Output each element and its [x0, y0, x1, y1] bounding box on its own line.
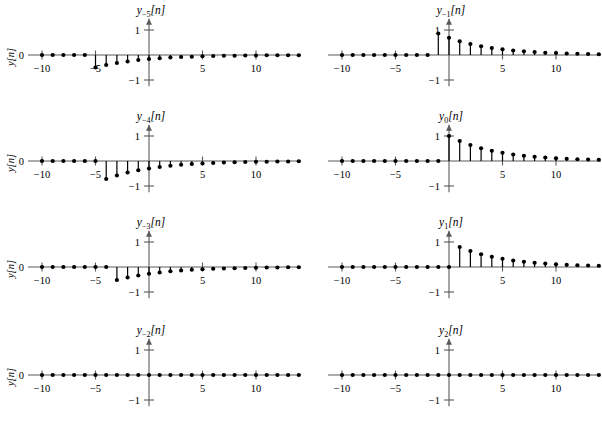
data-point — [136, 58, 140, 62]
data-point — [340, 265, 344, 269]
data-point — [200, 267, 204, 271]
data-point — [372, 373, 376, 377]
data-point — [393, 53, 397, 57]
y-zero-label: 0 — [19, 262, 24, 273]
data-point — [511, 373, 515, 377]
x-tick-label: 5 — [200, 383, 205, 394]
data-point — [51, 373, 55, 377]
data-point — [543, 155, 547, 159]
data-point — [479, 146, 483, 150]
data-point — [340, 159, 344, 163]
data-point — [565, 373, 569, 377]
data-point — [222, 266, 226, 270]
data-point — [286, 265, 290, 269]
data-point — [211, 54, 215, 58]
x-tick-label: −5 — [390, 275, 401, 286]
x-tick-label: −5 — [390, 169, 401, 180]
y-axis-arrow — [146, 339, 152, 345]
data-point — [458, 139, 462, 143]
data-point — [158, 56, 162, 60]
x-tick-label: −10 — [334, 275, 350, 286]
data-point — [275, 265, 279, 269]
data-point — [61, 265, 65, 269]
y-axis-arrow — [446, 125, 452, 131]
data-point — [458, 373, 462, 377]
y-tick-label: 1 — [435, 131, 440, 142]
y-tick-label: 1 — [135, 345, 140, 356]
data-point — [72, 373, 76, 377]
data-point — [533, 373, 537, 377]
data-point — [372, 53, 376, 57]
x-tick-label: −5 — [90, 275, 101, 286]
data-point — [147, 57, 151, 61]
x-tick-label: −10 — [34, 169, 50, 180]
y-axis-arrow — [146, 231, 152, 237]
data-point — [586, 157, 590, 161]
y-axis-label: y[n] — [5, 260, 16, 279]
x-tick-label: −10 — [34, 383, 50, 394]
data-point — [126, 170, 130, 174]
data-point — [543, 373, 547, 377]
data-point — [61, 159, 65, 163]
data-point — [147, 272, 151, 276]
data-point — [51, 53, 55, 57]
data-point — [136, 168, 140, 172]
data-point — [447, 36, 451, 40]
data-point — [147, 166, 151, 170]
data-point — [586, 52, 590, 56]
y-tick-label: −1 — [129, 75, 140, 86]
x-tick-label: −5 — [90, 383, 101, 394]
data-point — [40, 265, 44, 269]
data-point — [575, 373, 579, 377]
data-point — [83, 159, 87, 163]
data-point — [565, 51, 569, 55]
data-point — [597, 52, 601, 56]
data-point — [222, 160, 226, 164]
data-point — [500, 373, 504, 377]
data-point — [72, 265, 76, 269]
data-point — [126, 59, 130, 63]
data-point — [233, 266, 237, 270]
data-point — [533, 155, 537, 159]
data-point — [393, 265, 397, 269]
data-point — [93, 373, 97, 377]
data-point — [179, 55, 183, 59]
data-point — [522, 260, 526, 264]
data-point — [51, 265, 55, 269]
data-point — [458, 39, 462, 43]
data-point — [61, 53, 65, 57]
x-tick-label: −10 — [334, 63, 350, 74]
x-tick-label: −10 — [34, 275, 50, 286]
data-point — [404, 159, 408, 163]
data-point — [40, 373, 44, 377]
data-point — [447, 134, 451, 138]
data-point — [500, 257, 504, 261]
panel-title: y0[n] — [438, 110, 463, 125]
x-tick-label: 10 — [551, 63, 562, 74]
data-point — [275, 53, 279, 57]
plot-panel-y1: y1[n]−10−551015201−1n — [300, 212, 601, 319]
data-point — [211, 267, 215, 271]
data-point — [243, 53, 247, 57]
y-tick-label: −1 — [129, 395, 140, 406]
data-point — [200, 161, 204, 165]
data-point — [286, 53, 290, 57]
data-point — [340, 373, 344, 377]
y-axis-arrow — [446, 339, 452, 345]
y-tick-label: −1 — [429, 287, 440, 298]
data-point — [286, 373, 290, 377]
data-point — [436, 159, 440, 163]
data-point — [179, 163, 183, 167]
data-point — [243, 266, 247, 270]
x-tick-label: 10 — [551, 383, 562, 394]
data-point — [351, 53, 355, 57]
data-point — [179, 373, 183, 377]
data-point — [404, 373, 408, 377]
data-point — [254, 160, 258, 164]
data-point — [168, 55, 172, 59]
data-point — [61, 373, 65, 377]
plot-panel-y-4: y−4[n]−10−551015201−10y[n]n — [0, 106, 301, 213]
data-point — [361, 373, 365, 377]
x-tick-label: −5 — [390, 383, 401, 394]
data-point — [533, 261, 537, 265]
